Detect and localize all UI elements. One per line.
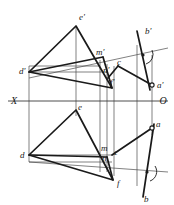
point-a-prime	[150, 83, 154, 87]
label-o-origin: O	[159, 95, 166, 106]
right-angle-dot-upper	[141, 53, 144, 56]
label-e-prime: e'	[79, 12, 86, 22]
label-f: f	[117, 178, 121, 188]
line-c-a	[112, 128, 152, 155]
label-c: c	[114, 147, 118, 157]
projection-drawing-canvas: X O e' d' m' n' f' c b' a' e d m n c f a…	[0, 0, 174, 205]
label-m-prime: m'	[96, 47, 105, 57]
label-f-prime: f'	[110, 77, 116, 87]
label-n-prime: n'	[103, 65, 111, 75]
point-labels: X O e' d' m' n' f' c b' a' e d m n c f a…	[10, 12, 167, 204]
frontal-oblique-lines	[29, 31, 152, 90]
label-c-prime: c	[117, 57, 121, 67]
label-d-prime: d'	[19, 66, 27, 76]
line-b-through-a	[143, 124, 154, 197]
label-n: n	[102, 153, 107, 163]
right-angle-dot-lower	[145, 170, 148, 173]
label-x-axis: X	[10, 95, 18, 106]
point-a	[150, 126, 154, 130]
label-d: d	[20, 150, 25, 160]
label-a: a	[156, 119, 161, 129]
descriptive-geometry-figure: X O e' d' m' n' f' c b' a' e d m n c f a…	[0, 0, 174, 205]
label-b: b	[144, 194, 149, 204]
label-a-prime: a'	[157, 80, 165, 90]
right-angle-arc-lower	[150, 166, 157, 181]
label-m: m	[101, 143, 108, 153]
label-e: e	[78, 102, 82, 112]
line-n-f	[107, 157, 113, 180]
horizontal-triangle-def	[29, 110, 154, 197]
label-b-prime: b'	[145, 26, 153, 36]
